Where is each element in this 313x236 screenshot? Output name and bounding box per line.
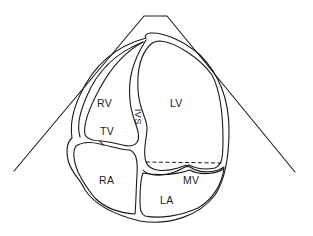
label-lv: LV [170,98,183,109]
mitral-annulus-dashed-line [146,162,223,163]
label-rv: RV [97,98,112,109]
diagram-svg [0,0,313,236]
label-mv: MV [183,175,199,186]
ultrasound-sector [14,16,295,172]
label-la: LA [160,195,173,206]
label-ra: RA [99,175,114,186]
heart-diagram: RV LV IVS TV RA MV LA [0,0,313,236]
rv-cavity-outline [85,40,146,146]
label-ivs: IVS [133,109,143,125]
la-cavity-outline [140,168,224,217]
label-tv: TV [100,126,114,137]
